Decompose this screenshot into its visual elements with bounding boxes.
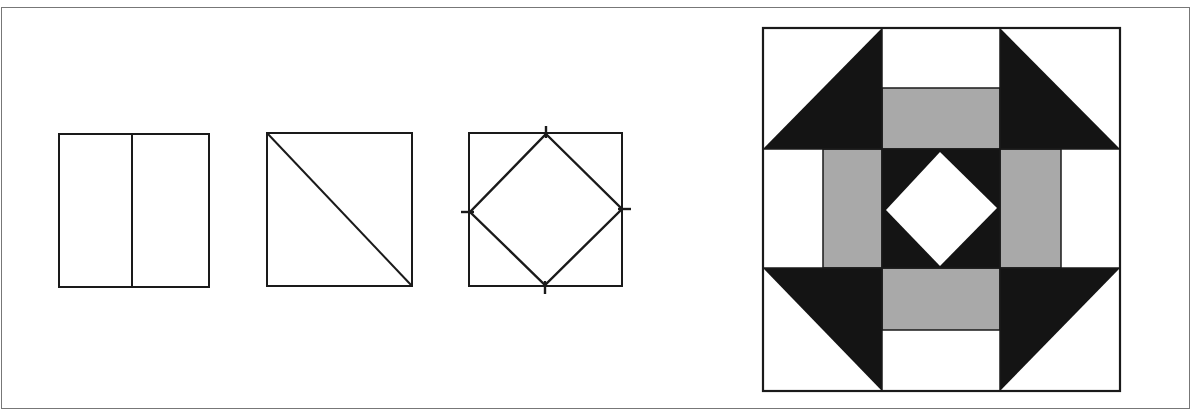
panel-square-in-square — [461, 126, 631, 294]
gray-bar-bottom — [882, 268, 1000, 330]
gray-bar-top — [882, 88, 1000, 149]
gray-bar-right — [1000, 149, 1061, 268]
halved-square-outline — [59, 134, 209, 287]
gray-bar-left — [823, 149, 882, 268]
diagonal-line — [267, 133, 412, 286]
outer-square-outline — [469, 133, 622, 286]
panel-square-diagonal — [267, 133, 412, 286]
inner-diamond — [470, 134, 622, 285]
diagram-canvas — [0, 0, 1194, 418]
panel-square-halved — [59, 134, 209, 287]
panel-finished-block — [763, 28, 1120, 391]
